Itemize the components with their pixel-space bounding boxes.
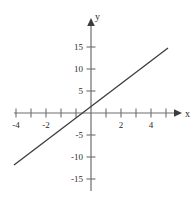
x-axis-label: x: [185, 108, 190, 119]
coordinate-plane-svg: y x -4 -2 2 4 15 10 5 -5 -10 -15: [0, 0, 196, 200]
y-tick-label-pos-10: 10: [74, 64, 84, 74]
x-tick-label-neg-4: -4: [12, 120, 20, 130]
y-axis-arrow-icon: [87, 18, 95, 26]
y-axis-label: y: [95, 11, 100, 22]
y-tick-label-neg-15: -15: [71, 174, 83, 184]
x-tick-label-pos-2: 2: [119, 120, 124, 130]
y-tick-label-pos-5: 5: [79, 86, 84, 96]
y-tick-label-pos-15: 15: [74, 42, 84, 52]
x-tick-label-pos-4: 4: [149, 120, 154, 130]
y-tick-label-neg-5: -5: [76, 130, 84, 140]
graph-figure: y x -4 -2 2 4 15 10 5 -5 -10 -15: [0, 0, 196, 200]
x-tick-label-neg-2: -2: [42, 120, 50, 130]
y-tick-label-neg-10: -10: [71, 152, 83, 162]
x-axis-arrow-icon: [174, 109, 182, 117]
